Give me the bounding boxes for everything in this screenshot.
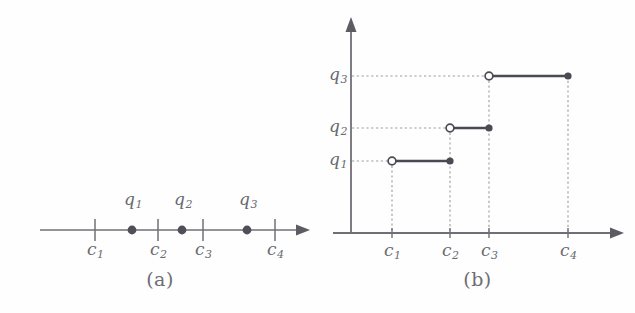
label-c2-panel-a: c2	[150, 241, 167, 260]
step-3-filled-endpoint	[564, 72, 571, 79]
panel-b-staircase: q1 q2 q3 c1 c2 c3 c4	[320, 0, 635, 313]
step-3-open-endpoint	[485, 72, 493, 80]
panel-b-svg	[320, 0, 635, 313]
label-c1-panel-b: c1	[384, 242, 401, 261]
point-q1	[128, 226, 137, 235]
step-2-open-endpoint	[446, 124, 454, 132]
label-q3-panel-b: q3	[329, 66, 347, 85]
label-c4-panel-a: c4	[267, 241, 284, 260]
point-q2	[178, 226, 187, 235]
label-c1-panel-a: c1	[87, 241, 104, 260]
caption-a: (a)	[0, 268, 320, 290]
caption-b: (b)	[320, 268, 635, 290]
label-q3-panel-a: q3	[239, 191, 257, 210]
point-q3	[243, 226, 252, 235]
panel-a-svg	[0, 0, 320, 313]
label-q2-panel-b: q2	[329, 118, 347, 137]
label-c3-panel-a: c3	[195, 241, 212, 260]
label-c3-panel-b: c3	[481, 242, 498, 261]
step-1-open-endpoint	[388, 157, 396, 165]
x-axis-arrowhead	[610, 228, 624, 239]
label-q2-panel-a: q2	[174, 191, 192, 210]
number-line-arrowhead	[296, 225, 310, 236]
figure-root: q1 q2 q3 c1 c2 c3 c4	[0, 0, 635, 313]
label-q1-panel-a: q1	[124, 191, 142, 210]
label-q1-panel-b: q1	[329, 151, 347, 170]
label-c2-panel-b: c2	[442, 242, 459, 261]
step-1-filled-endpoint	[446, 157, 453, 164]
panel-a-number-line: q1 q2 q3 c1 c2 c3 c4	[0, 0, 320, 313]
step-2-filled-endpoint	[485, 124, 492, 131]
y-axis-arrowhead	[346, 17, 357, 32]
label-c4-panel-b: c4	[560, 242, 577, 261]
